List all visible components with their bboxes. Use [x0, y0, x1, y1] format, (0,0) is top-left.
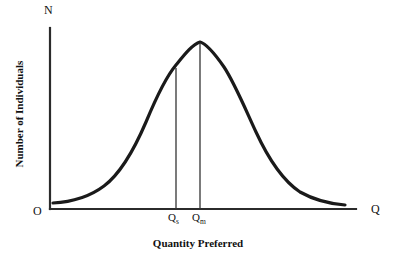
distribution-curve: [53, 42, 345, 205]
tick-label-qm-base: Q: [192, 211, 200, 223]
tick-label-qs-subscript: s: [176, 217, 179, 226]
tick-label-qm: Qm: [192, 212, 206, 223]
tick-label-qm-subscript: m: [200, 217, 206, 226]
chart-plot-area: [0, 0, 396, 269]
y-axis-title: Number of Individuals: [14, 68, 25, 168]
tick-label-qs-base: Q: [168, 211, 176, 223]
x-axis-title: Quantity Preferred: [0, 238, 396, 249]
tick-label-qs: Qs: [168, 212, 179, 223]
y-axis-symbol-label: N: [44, 4, 53, 16]
x-axis-symbol-label: Q: [371, 203, 380, 215]
bell-curve-chart: N Q O Number of Individuals Quantity Pre…: [0, 0, 396, 269]
origin-label: O: [33, 205, 42, 217]
